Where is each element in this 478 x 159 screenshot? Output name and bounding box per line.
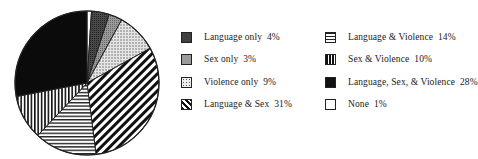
- legend-item: Language & Sex 31%: [181, 98, 292, 110]
- legend-item: Language only 4%: [181, 31, 280, 43]
- legend-item: Language, Sex, & Violence 28%: [325, 76, 478, 88]
- legend-swatch: [181, 77, 192, 88]
- legend-swatch: [181, 99, 192, 110]
- pie-chart: [0, 0, 180, 159]
- legend-item: None 1%: [325, 98, 387, 110]
- pie-slice-language-sex-violence: [15, 11, 87, 96]
- legend-label: Language, Sex, & Violence 28%: [348, 77, 478, 87]
- legend-item: Sex only 3%: [181, 53, 256, 65]
- legend-label: Language & Violence 14%: [348, 32, 456, 42]
- legend-label: Sex & Violence 10%: [348, 54, 432, 64]
- legend-item: Sex & Violence 10%: [325, 53, 432, 65]
- legend-label: Language only 4%: [204, 32, 280, 42]
- legend-label: Violence only 9%: [204, 77, 276, 87]
- legend-item: Violence only 9%: [181, 76, 276, 88]
- legend-swatch: [325, 99, 336, 110]
- legend-swatch: [181, 54, 192, 65]
- legend-swatch: [325, 32, 336, 43]
- legend-label: None 1%: [348, 99, 387, 109]
- legend-swatch: [181, 32, 192, 43]
- legend-swatch: [325, 54, 336, 65]
- legend-label: Sex only 3%: [204, 54, 256, 64]
- legend-label: Language & Sex 31%: [204, 99, 292, 109]
- legend-swatch: [325, 77, 336, 88]
- legend-item: Language & Violence 14%: [325, 31, 456, 43]
